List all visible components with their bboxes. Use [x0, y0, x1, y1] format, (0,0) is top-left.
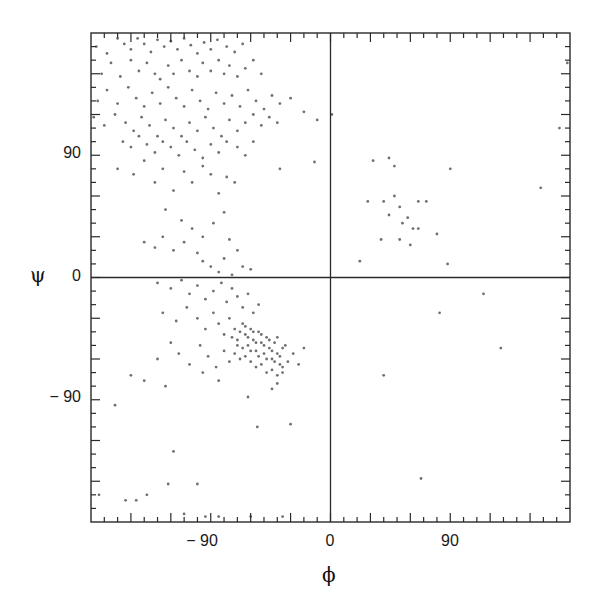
data-point — [255, 100, 258, 103]
data-point — [212, 127, 215, 130]
data-point — [217, 379, 220, 382]
data-point — [252, 59, 255, 62]
data-point — [289, 423, 292, 426]
data-point — [236, 344, 239, 347]
data-point — [260, 363, 263, 366]
data-point — [216, 38, 219, 41]
data-point — [417, 200, 420, 203]
data-point — [276, 382, 279, 385]
data-point — [233, 352, 236, 355]
data-point — [193, 148, 196, 151]
data-point — [175, 320, 178, 323]
data-point — [188, 292, 191, 295]
data-point — [92, 116, 95, 119]
data-point — [276, 352, 279, 355]
data-point — [106, 52, 109, 55]
data-point — [273, 341, 276, 344]
data-point — [241, 322, 244, 325]
data-point — [372, 159, 375, 162]
data-point — [223, 350, 226, 353]
x-tick-label-neg90: − 90 — [172, 532, 232, 550]
data-point — [406, 216, 409, 219]
data-point — [123, 43, 126, 46]
data-point — [265, 336, 268, 339]
data-point — [209, 173, 212, 176]
data-point — [215, 366, 218, 369]
data-point — [217, 515, 220, 518]
data-point — [172, 249, 175, 252]
data-point — [217, 192, 220, 195]
data-point — [96, 100, 99, 103]
data-point — [196, 129, 199, 132]
data-point — [188, 121, 191, 124]
data-point — [382, 200, 385, 203]
data-point — [143, 43, 146, 46]
data-point — [279, 167, 282, 170]
x-tick-label-0: 0 — [300, 532, 360, 550]
data-point — [177, 352, 180, 355]
data-point — [236, 146, 239, 149]
data-point — [228, 64, 231, 67]
data-point — [420, 477, 423, 480]
data-point — [172, 72, 175, 75]
data-point — [156, 358, 159, 361]
data-point — [156, 282, 159, 285]
data-point — [271, 94, 274, 97]
data-point — [204, 328, 207, 331]
data-point — [185, 306, 188, 309]
data-point — [176, 48, 179, 51]
data-point — [169, 287, 172, 290]
data-point — [271, 369, 274, 372]
data-point — [249, 360, 252, 363]
data-point — [239, 330, 242, 333]
data-point — [161, 167, 164, 170]
data-point — [279, 102, 282, 105]
data-point — [247, 336, 250, 339]
data-point — [247, 344, 250, 347]
data-point — [191, 181, 194, 184]
data-point — [217, 151, 220, 154]
data-point — [225, 301, 228, 304]
data-point — [279, 355, 282, 358]
data-point — [236, 75, 239, 78]
data-point — [159, 102, 162, 105]
data-point — [252, 339, 255, 342]
data-point — [241, 347, 244, 350]
data-point — [239, 105, 242, 108]
data-point — [276, 374, 279, 377]
data-point — [244, 67, 247, 70]
data-point — [114, 404, 117, 407]
data-point — [130, 374, 133, 377]
data-point — [154, 72, 157, 75]
data-point — [209, 48, 212, 51]
data-point — [116, 102, 119, 105]
data-point — [177, 154, 180, 157]
data-point — [209, 265, 212, 268]
data-point — [225, 140, 228, 143]
data-point — [220, 135, 223, 138]
ramachandran-plot — [0, 0, 601, 609]
data-point — [138, 135, 141, 138]
data-point — [388, 157, 391, 160]
data-point — [114, 113, 117, 116]
data-point — [225, 176, 228, 179]
data-point — [228, 360, 231, 363]
data-point — [130, 59, 133, 62]
data-point — [446, 263, 449, 266]
data-point — [156, 135, 159, 138]
data-point — [268, 116, 271, 119]
data-point — [223, 72, 226, 75]
data-point — [256, 426, 259, 429]
data-point — [228, 317, 231, 320]
data-point — [233, 181, 236, 184]
data-point — [212, 222, 215, 225]
data-point — [169, 146, 172, 149]
data-point — [241, 265, 244, 268]
data-point — [244, 121, 247, 124]
data-point — [252, 311, 255, 314]
data-point — [265, 358, 268, 361]
data-point — [143, 105, 146, 108]
data-point — [204, 515, 207, 518]
data-point — [482, 292, 485, 295]
data-point — [289, 97, 292, 100]
